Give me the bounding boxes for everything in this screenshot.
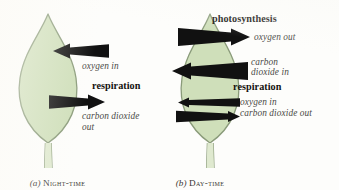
panel-night-time: oxygen in respiration carbon dioxide out… [0, 0, 170, 190]
leaf-stem-fill [207, 143, 214, 168]
carbon-dioxide-out-arrow-night [49, 93, 105, 111]
photosynthesis-heading-day: photosynthesis [212, 14, 277, 25]
oxygen-out-arrow-day [178, 27, 250, 47]
caption-day-time: (b)Day-time [162, 168, 224, 190]
oxygen-in-arrow-night [53, 42, 109, 60]
oxygen-in-label-day: oxygen in [240, 97, 277, 108]
respiration-heading-night: respiration [92, 81, 140, 92]
panel-day-time: photosynthesis oxygen out carbon dioxide… [160, 0, 339, 190]
oxygen-in-arrow-day [178, 97, 240, 108]
caption-night-letter: (a) [30, 178, 41, 188]
caption-day-text: Day-time [187, 178, 225, 188]
carbon-dioxide-in-label-day-line2: dioxide in [251, 67, 289, 78]
caption-day-letter: (b) [176, 178, 187, 188]
respiration-heading-day: respiration [233, 82, 281, 93]
gas-exchange-figure: oxygen in respiration carbon dioxide out… [0, 0, 339, 190]
carbon-dioxide-out-arrow-day [176, 110, 240, 123]
leaf-blade [19, 14, 77, 143]
oxygen-in-label-night: oxygen in [82, 61, 119, 72]
leaf-stem-fill [45, 143, 52, 168]
carbon-dioxide-out-label-day: carbon dioxide out [240, 108, 312, 119]
caption-night-text: Night-time [41, 178, 86, 188]
oxygen-out-label-day: oxygen out [254, 32, 296, 43]
caption-night-time: (a)Night-time [16, 168, 85, 190]
carbon-dioxide-in-arrow-day [172, 61, 248, 81]
carbon-dioxide-out-label-night-line2: out [82, 122, 94, 133]
carbon-dioxide-out-label-night-line1: carbon dioxide [82, 111, 139, 122]
carbon-dioxide-in-label-day-line1: carbon [251, 57, 278, 68]
